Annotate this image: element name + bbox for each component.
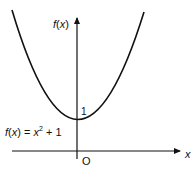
x-axis-label: x	[184, 148, 191, 160]
equation-label: f(x) = x2 + 1	[5, 125, 62, 138]
parabola-curve	[12, 10, 144, 120]
y-axis-label: f(x)	[53, 18, 69, 30]
origin-label: O	[82, 155, 91, 167]
y-intercept-label: 1	[81, 106, 87, 117]
function-graph: f(x) x O 1 f(x) = x2 + 1	[0, 0, 195, 169]
